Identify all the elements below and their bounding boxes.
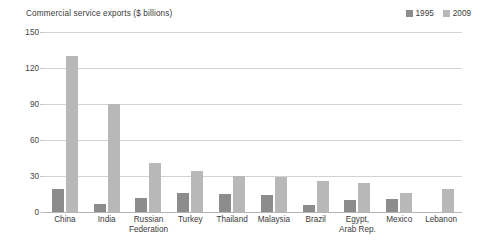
- y-tick-label-60: 60: [30, 136, 39, 145]
- bar-group: [337, 32, 379, 212]
- x-axis-label: Lebanon: [420, 215, 462, 235]
- y-tick-mark-0: [40, 212, 44, 213]
- y-tick-label-120: 120: [25, 64, 39, 73]
- bar-2009[interactable]: [149, 163, 161, 212]
- x-axis-label: India: [86, 215, 128, 235]
- bar-2009[interactable]: [400, 193, 412, 212]
- legend-item-1995[interactable]: 1995: [406, 9, 434, 18]
- bar-group: [253, 32, 295, 212]
- x-axis-label-line: China: [44, 215, 86, 225]
- legend-swatch-1995: [406, 10, 413, 17]
- bar-group: [169, 32, 211, 212]
- bar-2009[interactable]: [358, 183, 370, 212]
- bar-group: [295, 32, 337, 212]
- bars: [128, 32, 170, 212]
- bars: [295, 32, 337, 212]
- x-axis-label-line: Brazil: [295, 215, 337, 225]
- legend-item-2009[interactable]: 2009: [443, 9, 471, 18]
- x-axis-label-line: Russian: [128, 215, 170, 225]
- bar-2009[interactable]: [317, 181, 329, 212]
- bars: [44, 32, 86, 212]
- bar-1995[interactable]: [94, 204, 106, 212]
- bars: [169, 32, 211, 212]
- bar-2009[interactable]: [108, 104, 120, 212]
- bar-group: [420, 32, 462, 212]
- bar-1995[interactable]: [386, 199, 398, 212]
- bars: [253, 32, 295, 212]
- x-axis-labels: ChinaIndiaRussianFederationTurkeyThailan…: [44, 215, 462, 235]
- legend-label-1995: 1995: [416, 9, 434, 18]
- bar-2009[interactable]: [442, 189, 454, 212]
- bars: [378, 32, 420, 212]
- bar-1995[interactable]: [219, 194, 231, 212]
- x-axis-label-line: Arab Rep.: [337, 225, 379, 235]
- bar-group: [86, 32, 128, 212]
- bar-1995[interactable]: [261, 195, 273, 212]
- y-tick-label-30: 30: [30, 172, 39, 181]
- chart-legend: 1995 2009: [406, 9, 471, 18]
- bar-group: [128, 32, 170, 212]
- bar-2009[interactable]: [275, 177, 287, 212]
- bars: [337, 32, 379, 212]
- x-axis-label: Mexico: [378, 215, 420, 235]
- bar-2009[interactable]: [233, 176, 245, 212]
- bars: [86, 32, 128, 212]
- x-axis-label: Malaysia: [253, 215, 295, 235]
- bar-1995[interactable]: [135, 198, 147, 212]
- plot-area: 0306090120150: [44, 32, 462, 212]
- chart-title: Commercial service exports ($ billions): [26, 9, 172, 18]
- x-axis-label-line: Malaysia: [253, 215, 295, 225]
- y-tick-label-150: 150: [25, 28, 39, 37]
- bar-2009[interactable]: [191, 171, 203, 212]
- x-axis-label-line: Turkey: [169, 215, 211, 225]
- x-axis-label-line: Federation: [128, 225, 170, 235]
- x-axis-label: Egypt,Arab Rep.: [337, 215, 379, 235]
- bars: [211, 32, 253, 212]
- y-tick-label-0: 0: [34, 208, 39, 217]
- chart-container: Commercial service exports ($ billions) …: [0, 0, 479, 244]
- y-tick-label-90: 90: [30, 100, 39, 109]
- x-axis-label: Turkey: [169, 215, 211, 235]
- x-axis-label: China: [44, 215, 86, 235]
- bar-groups: [44, 32, 462, 212]
- x-axis-label-line: India: [86, 215, 128, 225]
- bar-group: [44, 32, 86, 212]
- bar-group: [378, 32, 420, 212]
- bars: [420, 32, 462, 212]
- bar-1995[interactable]: [52, 189, 64, 212]
- bar-1995[interactable]: [303, 205, 315, 212]
- bar-2009[interactable]: [66, 56, 78, 212]
- x-axis-label: Brazil: [295, 215, 337, 235]
- x-axis-label-line: Thailand: [211, 215, 253, 225]
- legend-label-2009: 2009: [453, 9, 471, 18]
- x-axis-label: Thailand: [211, 215, 253, 235]
- x-axis-label: RussianFederation: [128, 215, 170, 235]
- bar-group: [211, 32, 253, 212]
- legend-swatch-2009: [443, 10, 450, 17]
- x-axis-label-line: Egypt,: [337, 215, 379, 225]
- bar-1995[interactable]: [344, 200, 356, 212]
- x-axis-label-line: Lebanon: [420, 215, 462, 225]
- gridline-0: 0: [44, 212, 462, 213]
- x-axis-label-line: Mexico: [378, 215, 420, 225]
- bar-1995[interactable]: [177, 193, 189, 212]
